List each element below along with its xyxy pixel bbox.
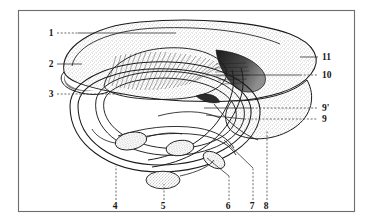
ampulla-posterior xyxy=(146,171,180,189)
callout-label-7: 7 xyxy=(250,201,255,211)
callout-label-10: 10 xyxy=(322,70,332,80)
callout-label-11: 11 xyxy=(322,52,331,62)
figure-container: 1 2 3 4 5 6 7 8 9 9' 10 11 xyxy=(0,0,375,223)
callout-label-2: 2 xyxy=(49,59,54,69)
callout-label-3: 3 xyxy=(49,89,54,99)
callout-label-6: 6 xyxy=(226,201,231,211)
callout-label-4: 4 xyxy=(113,201,118,211)
callout-label-5: 5 xyxy=(161,201,166,211)
anatomical-figure: 1 2 3 4 5 6 7 8 9 9' 10 11 xyxy=(0,0,375,223)
callout-label-8: 8 xyxy=(264,201,269,211)
callout-label-9-prime: 9' xyxy=(322,103,329,113)
callout-label-1: 1 xyxy=(49,28,54,38)
callout-label-9: 9 xyxy=(322,114,327,124)
